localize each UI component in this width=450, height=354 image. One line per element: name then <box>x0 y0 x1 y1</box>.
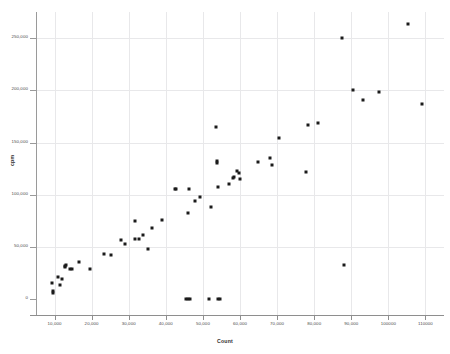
x-axis-tick-label: 10,000 <box>48 322 62 326</box>
y-axis-tick <box>30 195 36 196</box>
data-point <box>174 187 177 190</box>
x-axis-tick <box>351 315 352 320</box>
data-point <box>52 292 55 295</box>
data-point <box>341 36 344 39</box>
data-point <box>239 177 242 180</box>
data-point <box>277 137 280 140</box>
data-point <box>316 122 319 125</box>
data-point <box>50 281 53 284</box>
data-point <box>215 125 218 128</box>
gridline-vertical <box>314 12 315 315</box>
x-axis-tick <box>277 315 278 320</box>
x-axis-tick-label: 100000 <box>381 322 396 326</box>
data-point <box>78 261 81 264</box>
x-axis-tick-label: 90,000 <box>344 322 358 326</box>
x-axis-tick <box>166 315 167 320</box>
data-point <box>124 242 127 245</box>
data-point <box>133 220 136 223</box>
data-point <box>352 88 355 91</box>
x-axis-tick <box>314 315 315 320</box>
data-point <box>71 267 74 270</box>
data-point <box>227 183 230 186</box>
gridline-horizontal <box>36 247 444 248</box>
data-point <box>198 196 201 199</box>
x-axis-tick-label: 30,000 <box>122 322 136 326</box>
gridline-vertical <box>129 12 130 315</box>
gridline-vertical <box>203 12 204 315</box>
data-point <box>377 90 380 93</box>
data-point <box>194 199 197 202</box>
y-axis-tick <box>30 90 36 91</box>
data-point <box>58 284 61 287</box>
x-axis-tick-label: 40,000 <box>159 322 173 326</box>
x-axis-tick-label: 80,000 <box>307 322 321 326</box>
x-axis-tick-label: 50,000 <box>196 322 210 326</box>
x-axis-tick <box>425 315 426 320</box>
x-axis-tick <box>388 315 389 320</box>
gridline-vertical <box>425 12 426 315</box>
gridline-horizontal <box>36 38 444 39</box>
data-point <box>137 237 140 240</box>
data-point <box>210 205 213 208</box>
data-point <box>233 175 236 178</box>
y-axis-tick-label: 100,000 <box>0 192 28 198</box>
x-axis-title: Count <box>0 338 450 344</box>
y-axis-tick <box>30 299 36 300</box>
data-point <box>186 211 189 214</box>
x-axis-tick <box>129 315 130 320</box>
data-point <box>109 254 112 257</box>
data-point <box>102 252 105 255</box>
gridline-vertical <box>166 12 167 315</box>
gridline-vertical <box>240 12 241 315</box>
plot-area <box>36 12 444 315</box>
data-point <box>256 160 259 163</box>
data-point <box>304 171 307 174</box>
data-point <box>147 247 150 250</box>
y-axis-tick-label: 250,000 <box>0 35 28 41</box>
data-point <box>407 23 410 26</box>
data-point <box>150 226 153 229</box>
y-axis-tick <box>30 143 36 144</box>
y-axis-line <box>36 12 37 315</box>
data-point <box>306 124 309 127</box>
x-axis-tick-label: 20,000 <box>85 322 99 326</box>
data-point <box>207 298 210 301</box>
x-axis-tick <box>55 315 56 320</box>
data-point <box>216 161 219 164</box>
scatter-chart: 10,00020,00030,00040,00050,00060,00070,0… <box>0 0 450 354</box>
data-point <box>237 172 240 175</box>
data-point <box>219 298 222 301</box>
data-point <box>65 264 68 267</box>
y-axis-tick-label: 0 <box>0 296 28 302</box>
gridline-horizontal <box>36 195 444 196</box>
y-axis-tick <box>30 38 36 39</box>
data-point <box>420 103 423 106</box>
gridline-vertical <box>351 12 352 315</box>
data-point <box>217 186 220 189</box>
x-axis-tick <box>203 315 204 320</box>
data-point <box>142 233 145 236</box>
data-point <box>343 263 346 266</box>
gridline-vertical <box>55 12 56 315</box>
x-axis-tick-label: 60,000 <box>233 322 247 326</box>
gridline-vertical <box>92 12 93 315</box>
x-axis-tick <box>240 315 241 320</box>
x-axis-tick-label: 70,000 <box>270 322 284 326</box>
gridline-vertical <box>277 12 278 315</box>
y-axis-title: cpm <box>9 155 15 166</box>
y-axis-tick <box>30 247 36 248</box>
y-axis-tick-label: 50,000 <box>0 244 28 250</box>
data-point <box>61 277 64 280</box>
gridline-vertical <box>388 12 389 315</box>
x-axis-tick <box>92 315 93 320</box>
data-point <box>119 238 122 241</box>
data-point <box>161 219 164 222</box>
gridline-horizontal <box>36 143 444 144</box>
gridline-horizontal <box>36 90 444 91</box>
data-point <box>361 98 364 101</box>
data-point <box>88 268 91 271</box>
data-point <box>187 188 190 191</box>
data-point <box>56 276 59 279</box>
y-axis-tick-label: 150,000 <box>0 140 28 146</box>
y-axis-tick-label: 200,000 <box>0 87 28 93</box>
